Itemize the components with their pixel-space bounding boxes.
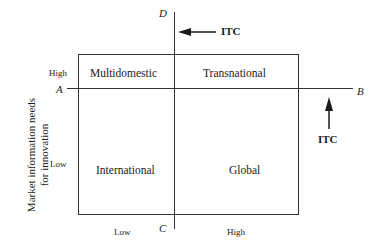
pole-label-b: B [357,85,364,97]
y-axis-label-line2: for innovation [38,75,51,235]
arrow-up-icon [324,97,334,129]
arrow-left-icon [178,27,218,37]
pole-label-a: A [56,83,63,95]
x-tick-high: High [227,227,245,237]
itc-label-top: ITC [221,25,241,37]
y-tick-low: Low [50,159,67,169]
axis-line-c-d [174,12,175,229]
quadrant-global: Global [229,164,260,176]
quadrant-multidomestic: Multidomestic [90,67,157,79]
pole-label-c: C [159,222,166,234]
y-axis-label-line1: Market information needs [25,75,38,235]
quadrant-transnational: Transnational [203,67,266,79]
x-tick-low: Low [114,227,131,237]
pole-label-d: D [159,7,167,19]
axis-line-a-b [67,88,353,89]
itc-label-right: ITC [318,133,338,145]
y-tick-high: High [49,68,67,78]
quadrant-international: International [96,164,155,176]
